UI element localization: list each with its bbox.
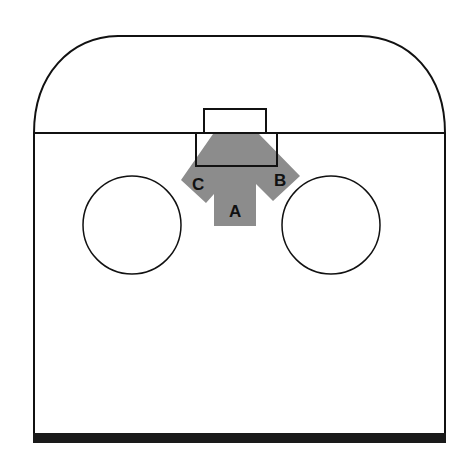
top-small-rectangle (204, 109, 266, 133)
left-circle (83, 176, 181, 274)
right-circle (282, 176, 380, 274)
label-c: C (192, 175, 204, 194)
label-a: A (229, 202, 241, 221)
diagram-canvas: C B A (0, 0, 473, 466)
label-b: B (274, 171, 286, 190)
base-bar (33, 433, 446, 443)
